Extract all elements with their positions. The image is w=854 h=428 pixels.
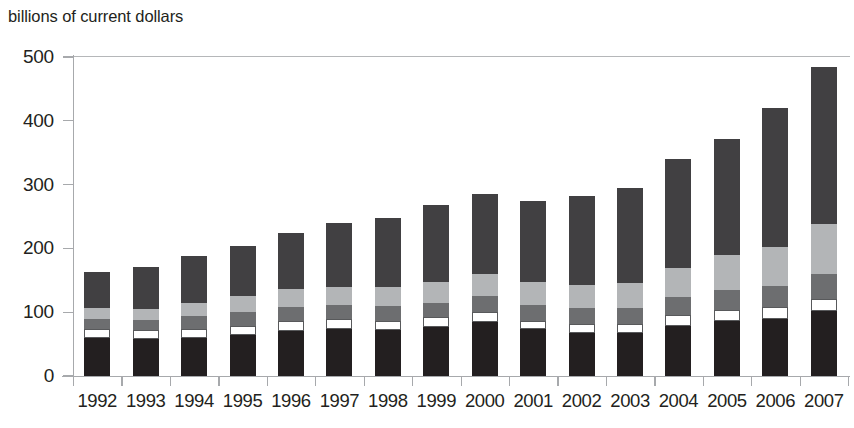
bar-2002 [569,196,595,376]
bar-2000 [472,194,498,376]
bar-segment-segment-2-white [520,321,546,330]
y-axis-tick [63,312,73,313]
plot-area [73,57,848,376]
bar-segment-segment-3-mid-gray [617,308,643,324]
bar-1996 [278,233,304,376]
bar-segment-segment-2-white [762,307,788,318]
bar-segment-segment-3-mid-gray [133,320,159,330]
x-axis-label-1992: 1992 [73,390,121,412]
bar-segment-segment-2-white [375,321,401,331]
x-axis-label-2001: 2001 [509,390,557,412]
bar-segment-segment-2-white [617,324,643,334]
bar-segment-segment-2-white [714,310,740,321]
bar-1994 [181,256,207,376]
bar-segment-segment-2-white [181,329,207,338]
bar-segment-segment-1-black [762,319,788,376]
bar-segment-segment-2-white [423,317,449,327]
x-axis-tick [412,377,413,386]
x-axis-tick [73,377,74,386]
bar-segment-segment-3-mid-gray [520,305,546,320]
bar-segment-segment-3-mid-gray [278,307,304,321]
bar-segment-segment-3-mid-gray [230,312,256,326]
x-axis-tick [218,377,219,386]
x-axis-tick [461,377,462,386]
x-axis-label-2007: 2007 [800,390,848,412]
bar-segment-segment-3-mid-gray [423,303,449,318]
bar-2003 [617,188,643,376]
bar-1993 [133,267,159,376]
bar-segment-segment-1-black [617,333,643,376]
bar-segment-segment-4-light-gray [811,224,837,274]
bar-segment-segment-3-mid-gray [569,308,595,323]
bar-segment-segment-4-light-gray [133,309,159,320]
bar-segment-segment-1-black [133,339,159,376]
bar-2001 [520,201,546,376]
x-axis-tick [800,377,801,386]
x-axis-label-1994: 1994 [170,390,218,412]
bar-1997 [326,223,352,376]
y-axis-label: 400 [0,111,54,130]
bar-segment-segment-5-dark-gray [617,188,643,282]
y-axis-label: 100 [0,302,54,321]
bar-segment-segment-1-black [569,333,595,376]
bar-segment-segment-1-black [84,338,110,376]
bar-segment-segment-5-dark-gray [569,196,595,285]
bar-segment-segment-1-black [278,331,304,376]
bar-segment-segment-5-dark-gray [472,194,498,274]
bar-segment-segment-2-white [665,315,691,326]
bar-segment-segment-4-light-gray [665,268,691,297]
bar-1999 [423,205,449,376]
x-axis-label-1993: 1993 [121,390,169,412]
x-axis-label-2003: 2003 [606,390,654,412]
bar-segment-segment-5-dark-gray [375,218,401,287]
bar-2005 [714,139,740,376]
bar-segment-segment-3-mid-gray [326,305,352,319]
y-axis-tick [63,56,73,57]
bar-segment-segment-1-black [230,335,256,376]
bar-segment-segment-4-light-gray [520,282,546,305]
bar-1998 [375,218,401,376]
bar-segment-segment-1-black [423,327,449,376]
bar-segment-segment-2-white [811,299,837,311]
x-axis-label-1998: 1998 [364,390,412,412]
bar-segment-segment-3-mid-gray [762,286,788,307]
bar-segment-segment-1-black [714,321,740,376]
bar-segment-segment-3-mid-gray [472,296,498,312]
bar-segment-segment-2-white [472,312,498,322]
bar-segment-segment-4-light-gray [423,282,449,303]
x-axis-label-2002: 2002 [557,390,605,412]
bar-segment-segment-1-black [375,330,401,376]
x-axis-label-2006: 2006 [751,390,799,412]
bar-segment-segment-4-light-gray [617,283,643,308]
bar-2004 [665,159,691,376]
bar-segment-segment-1-black [326,329,352,376]
bar-segment-segment-3-mid-gray [375,306,401,320]
bar-segment-segment-5-dark-gray [423,205,449,282]
y-axis-label: 300 [0,175,54,194]
bar-segment-segment-4-light-gray [230,296,256,312]
bar-1992 [84,272,110,376]
x-axis-tick [509,377,510,386]
x-axis-tick [315,377,316,386]
x-axis-label-1995: 1995 [218,390,266,412]
x-axis-label-1996: 1996 [267,390,315,412]
bar-segment-segment-5-dark-gray [762,108,788,246]
y-axis-label: 500 [0,47,54,66]
bar-segment-segment-1-black [665,326,691,376]
x-axis-tick [170,377,171,386]
x-axis-tick [121,377,122,386]
x-axis-label-2005: 2005 [703,390,751,412]
x-axis-tick [606,377,607,386]
y-axis-tick [63,375,73,376]
bar-segment-segment-3-mid-gray [665,297,691,315]
bar-segment-segment-3-mid-gray [181,316,207,329]
bar-segment-segment-4-light-gray [326,287,352,306]
x-axis-label-1997: 1997 [315,390,363,412]
bar-segment-segment-2-white [326,319,352,329]
bar-segment-segment-5-dark-gray [278,233,304,289]
bar-segment-segment-3-mid-gray [811,274,837,299]
bar-segment-segment-5-dark-gray [326,223,352,287]
x-axis-tick [703,377,704,386]
bar-segment-segment-2-white [278,321,304,331]
bar-segment-segment-4-light-gray [472,274,498,296]
